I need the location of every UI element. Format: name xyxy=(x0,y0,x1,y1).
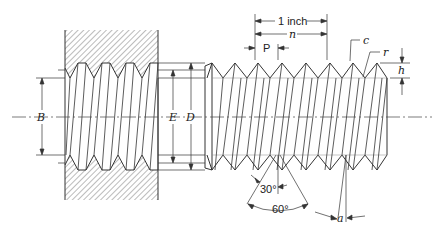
label-h: h xyxy=(398,64,405,77)
label-B: B xyxy=(36,111,45,124)
nut-top-hatch xyxy=(65,30,158,78)
label-30-degrees: 30° xyxy=(260,183,277,195)
nut-section xyxy=(65,30,158,200)
label-c: c xyxy=(363,34,369,47)
screw-thread-profile-bottom xyxy=(207,155,387,170)
screw xyxy=(205,63,387,170)
label-r: r xyxy=(383,46,389,59)
label-E: E xyxy=(168,111,177,124)
label-P: P xyxy=(263,42,270,54)
thread-diagram: B E D 1 inch n P c r h 30° 60° a xyxy=(0,0,441,237)
label-60-degrees: 60° xyxy=(272,203,289,215)
label-D: D xyxy=(185,111,195,124)
label-n: n xyxy=(289,28,296,41)
label-a: a xyxy=(337,212,344,225)
label-one-inch: 1 inch xyxy=(278,15,307,27)
